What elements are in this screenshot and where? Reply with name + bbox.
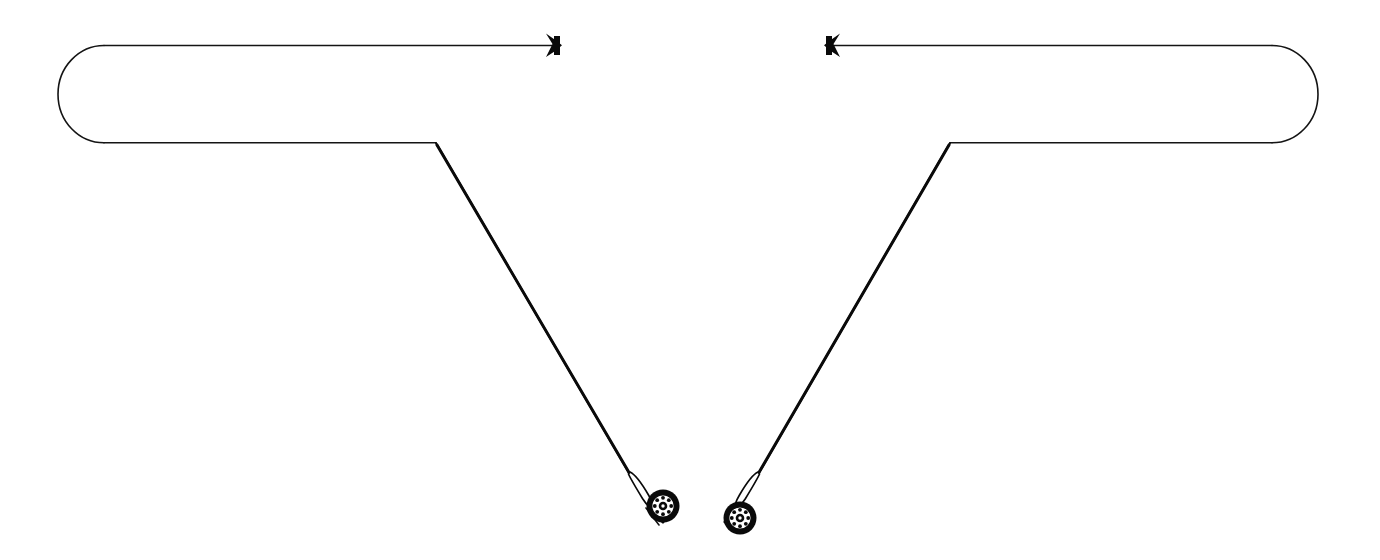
right-loop-end-cap [1272, 46, 1318, 143]
left-reel-hub-center [661, 504, 664, 507]
left-fishing-rod [436, 143, 680, 525]
right-rod-reel [724, 502, 757, 535]
right-line-loop [834, 46, 1318, 143]
left-arrow-tip-bar [554, 36, 560, 55]
diagram-canvas [0, 0, 1380, 560]
left-rod-blank [437, 145, 634, 481]
left-loop-end-cap [58, 46, 104, 143]
right-rod-blank [754, 145, 949, 481]
fishing-rod-line-diagram [0, 0, 1380, 560]
right-arrow-tip-bar [826, 36, 832, 55]
right-reel-hub-center [738, 516, 741, 519]
left-line-loop [58, 46, 553, 143]
left-rod-reel [647, 490, 680, 523]
right-fishing-rod [724, 143, 951, 535]
